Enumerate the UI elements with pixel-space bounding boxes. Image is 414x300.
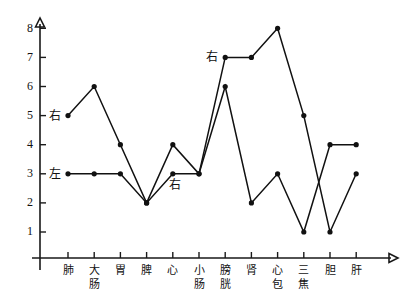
x-axis-tick-label-9: 三焦: [298, 264, 309, 291]
y-axis-tick-label-4: 4: [27, 137, 33, 151]
data-point-右-胆: [327, 229, 332, 234]
data-point-左-心包: [275, 171, 280, 176]
annotation-右-肺: 右: [49, 108, 61, 123]
data-point-右-肾: [249, 55, 254, 60]
x-axis-tick-label-7: 肾: [246, 264, 257, 277]
x-axis-tick-labels: 肺大肠胃脾心小肠膀胱肾心包三焦胆肝: [63, 263, 362, 291]
y-axis-tick-label-7: 7: [27, 50, 33, 64]
x-axis-tick-label-4: 心: [167, 264, 178, 277]
data-point-左-肺: [65, 171, 70, 176]
data-point-右-心包: [275, 26, 280, 31]
data-point-左-肾: [249, 200, 254, 205]
x-axis-tick-label-5: 小肠: [194, 264, 205, 291]
x-axis-ticks: [68, 252, 356, 258]
data-point-左-脾: [144, 200, 149, 205]
data-point-右-三焦: [301, 113, 306, 118]
data-point-右-心: [170, 142, 175, 147]
x-axis-tick-label-6: 膀胱: [220, 263, 231, 291]
annotation-左-肺: 左: [49, 166, 61, 181]
x-axis-tick-label-8: 心包: [272, 264, 283, 291]
annotation-layer: 右左右右: [49, 49, 218, 191]
data-point-右-肝: [354, 171, 359, 176]
x-axis-tick-label-10: 胆: [325, 264, 336, 277]
data-point-左-心: [170, 171, 175, 176]
y-axis-ticks: [40, 28, 46, 232]
y-axis-tick-label-8: 8: [27, 21, 33, 35]
data-point-左-大肠: [92, 171, 97, 176]
x-axis-tick-label-0: 肺: [63, 264, 74, 277]
y-axis-tick-label-3: 3: [27, 166, 33, 180]
line-chart: 12345678 肺大肠胃脾心小肠膀胱肾心包三焦胆肝 右左右右: [0, 0, 414, 300]
y-axis: 12345678: [27, 18, 46, 270]
x-axis-tick-label-3: 脾: [141, 263, 152, 277]
data-point-左-三焦: [301, 229, 306, 234]
annotation-右-心: 右: [169, 177, 181, 192]
x-axis-tick-label-11: 肝: [351, 264, 362, 277]
data-point-左-胃: [118, 171, 123, 176]
data-point-右-膀胱: [223, 55, 228, 60]
y-axis-tick-label-6: 6: [27, 79, 33, 93]
data-point-右-肺: [65, 113, 70, 118]
x-axis-line: [32, 254, 398, 263]
y-axis-tick-label-5: 5: [27, 108, 33, 122]
data-point-右-胃: [118, 142, 123, 147]
data-point-左-膀胱: [223, 84, 228, 89]
data-point-左-肝: [354, 142, 359, 147]
y-axis-tick-label-2: 2: [27, 195, 33, 209]
x-axis: 肺大肠胃脾心小肠膀胱肾心包三焦胆肝: [32, 252, 398, 291]
y-axis-tick-label-1: 1: [27, 224, 33, 238]
data-point-右-大肠: [92, 84, 97, 89]
x-axis-tick-label-1: 大肠: [89, 263, 100, 291]
y-axis-tick-labels: 12345678: [27, 21, 33, 239]
data-point-左-小肠: [196, 171, 201, 176]
chart-canvas: 12345678 肺大肠胃脾心小肠膀胱肾心包三焦胆肝 右左右右: [0, 0, 414, 300]
x-axis-tick-label-2: 胃: [115, 264, 126, 277]
data-point-左-胆: [327, 142, 332, 147]
annotation-右-膀胱: 右: [206, 49, 218, 64]
